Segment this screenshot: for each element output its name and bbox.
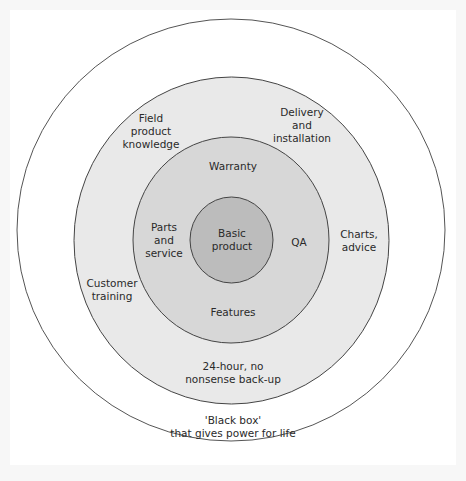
label-delivery-installation: Delivery and installation [273,106,331,145]
diagram-frame: 'Black box' that gives power for life Fi… [0,0,466,481]
label-black-box: 'Black box' that gives power for life [170,414,295,440]
label-charts-advice: Charts, advice [340,228,378,254]
label-features: Features [210,306,255,319]
label-basic-product: Basic product [212,227,252,253]
label-customer-training: Customer training [86,277,137,303]
label-field-product-knowledge: Field product knowledge [123,112,180,151]
label-qa: QA [291,236,306,249]
label-backup: 24-hour, no nonsense back-up [185,360,281,386]
label-parts-service: Parts and service [145,221,183,260]
label-warranty: Warranty [209,160,257,173]
